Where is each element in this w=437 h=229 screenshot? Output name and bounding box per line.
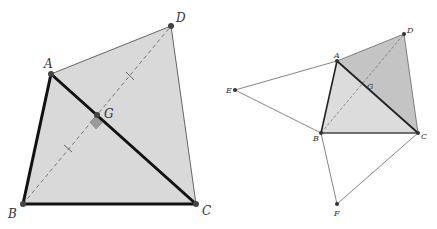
right-label-e: E <box>225 86 232 95</box>
right-figure: A B C D E F G <box>225 26 427 218</box>
right-point-e <box>233 88 237 92</box>
left-point-b <box>20 201 26 207</box>
left-point-d <box>168 23 174 29</box>
left-point-a <box>48 71 54 77</box>
right-point-d <box>402 32 406 36</box>
left-label-d: D <box>175 11 186 25</box>
left-figure: A B C D G <box>7 11 211 221</box>
right-point-c <box>416 131 420 135</box>
right-label-f: F <box>333 209 340 218</box>
right-segment-ea <box>235 61 337 90</box>
right-label-c: C <box>421 132 427 141</box>
left-label-b: B <box>7 207 17 221</box>
right-label-g: G <box>367 82 374 91</box>
left-label-c: C <box>202 204 211 218</box>
geometry-diagram: A B C D G A B C D E F G <box>0 0 437 229</box>
left-point-c <box>193 201 199 207</box>
left-point-g <box>94 112 100 118</box>
right-point-b <box>319 131 323 135</box>
right-point-f <box>335 202 339 206</box>
right-segment-bf <box>321 133 337 204</box>
right-label-b: B <box>312 134 319 143</box>
right-label-a: A <box>333 51 340 60</box>
left-label-a: A <box>43 57 53 71</box>
right-segment-eb <box>235 90 321 133</box>
right-segment-cf <box>337 133 418 204</box>
left-label-g: G <box>104 107 114 121</box>
right-label-d: D <box>406 26 414 35</box>
